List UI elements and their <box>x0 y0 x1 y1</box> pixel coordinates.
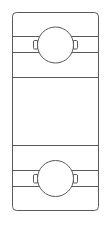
top-cage-left-tab <box>34 41 38 50</box>
bearing-diagram <box>0 0 111 225</box>
bottom-ring-section <box>13 146 99 197</box>
top-ring-section <box>13 27 99 78</box>
bottom-cage-left-tab <box>34 175 38 184</box>
top-ball <box>38 27 74 63</box>
bottom-cage-right-tab <box>74 175 78 184</box>
bottom-ball <box>38 161 74 197</box>
top-cage-right-tab <box>74 41 78 50</box>
